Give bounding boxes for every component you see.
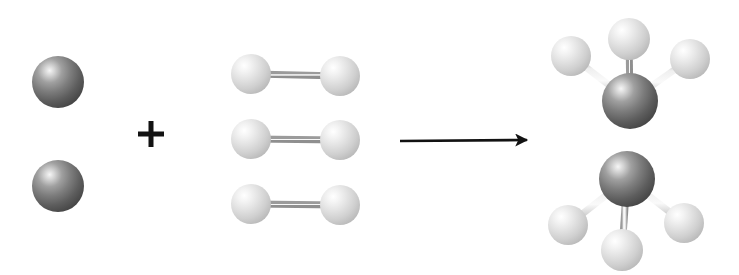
light-atom-lower-left: [548, 205, 588, 245]
light-atom-left: [231, 54, 271, 94]
light-atom-upper-left: [551, 36, 591, 76]
light-atom-lower-right: [664, 203, 704, 243]
light-atom-upper-right: [670, 39, 710, 79]
light-atom-top: [608, 18, 650, 60]
dark-atom-top: [32, 56, 84, 108]
arrow-shaft: [400, 140, 527, 141]
reaction-arrow: [400, 140, 527, 141]
plus-vertical-bar: [149, 121, 154, 147]
light-atom-right: [320, 56, 360, 96]
light-atom-right: [320, 185, 360, 225]
light-atom-left: [231, 184, 271, 224]
reaction-diagram-svg: [0, 0, 739, 275]
light-atom-bottom: [601, 229, 643, 271]
light-atom-left: [231, 119, 271, 159]
dark-central-atom: [602, 73, 658, 129]
dark-atom-bottom: [32, 160, 84, 212]
dark-central-atom: [599, 151, 655, 207]
light-atom-right: [320, 120, 360, 160]
reaction-diagram-canvas: [0, 0, 739, 275]
